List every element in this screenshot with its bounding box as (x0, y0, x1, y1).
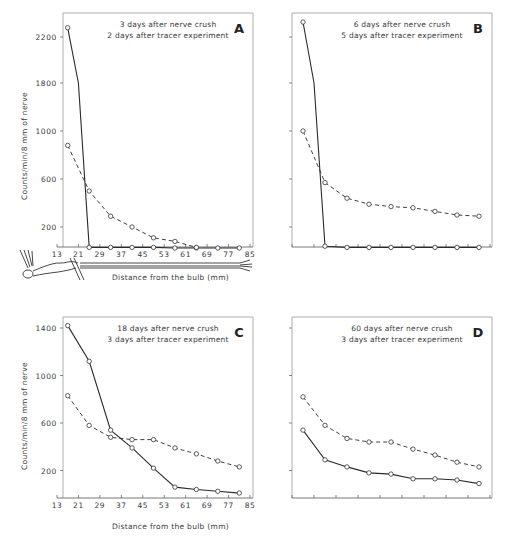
data-point-marker (323, 180, 327, 184)
series-line-dashed (303, 397, 479, 467)
data-point-marker (194, 452, 198, 456)
data-point-marker (345, 245, 349, 249)
data-point-marker (151, 466, 155, 470)
panel-title: 18 days after nerve crush (117, 324, 219, 333)
data-point-marker (389, 472, 393, 476)
y-tick-label: 1000 (36, 127, 58, 136)
panel-letter: D (473, 325, 484, 340)
data-point-marker (108, 435, 112, 439)
plot-frame (292, 317, 492, 498)
x-tick-label: 13 (52, 501, 63, 510)
x-tick-label: 45 (137, 250, 148, 259)
data-point-marker (367, 245, 371, 249)
y-tick-label: 200 (41, 223, 57, 232)
panel-d: 60 days after nerve crush3 days after tr… (289, 317, 492, 498)
plot-frame (63, 13, 253, 247)
panel-title: 6 days after nerve crush (354, 20, 451, 29)
data-point-marker (455, 460, 459, 464)
data-point-marker (173, 446, 177, 450)
data-point-marker (173, 485, 177, 489)
x-tick-label: 61 (180, 250, 191, 259)
y-axis-label-top: Counts/min/8 mm of nerve (20, 92, 29, 200)
data-point-marker (66, 143, 70, 147)
data-point-marker (216, 246, 220, 250)
data-point-marker (389, 440, 393, 444)
data-point-marker (477, 465, 481, 469)
data-point-marker (151, 437, 155, 441)
data-point-marker (367, 202, 371, 206)
series-line-solid (68, 28, 240, 248)
data-point-marker (433, 477, 437, 481)
data-point-marker (433, 453, 437, 457)
data-point-marker (389, 245, 393, 249)
data-point-marker (237, 246, 241, 250)
series-line-dashed (68, 396, 240, 467)
x-tick-label: 77 (223, 250, 234, 259)
data-point-marker (411, 447, 415, 451)
data-point-marker (108, 245, 112, 249)
data-point-marker (87, 359, 91, 363)
panel-subtitle: 3 days after tracer experiment (107, 335, 228, 344)
data-point-marker (301, 20, 305, 24)
data-point-marker (433, 245, 437, 249)
figure: 132129374553616977852006001000180022003 … (0, 0, 510, 545)
data-point-marker (108, 428, 112, 432)
data-point-marker (389, 204, 393, 208)
data-point-marker (433, 209, 437, 213)
plot-frame (63, 317, 253, 498)
data-point-marker (367, 471, 371, 475)
data-point-marker (173, 246, 177, 250)
panel-letter: A (234, 21, 244, 36)
x-tick-label: 29 (95, 501, 106, 510)
panel-c: 132129374553616977852006001000140018 day… (36, 317, 256, 510)
panel-subtitle: 2 days after tracer experiment (107, 31, 228, 40)
y-tick-label: 200 (41, 467, 57, 476)
data-point-marker (345, 196, 349, 200)
data-point-marker (323, 458, 327, 462)
data-point-marker (411, 245, 415, 249)
data-point-marker (477, 245, 481, 249)
data-point-marker (477, 481, 481, 485)
series-line-solid (303, 22, 479, 247)
data-point-marker (66, 323, 70, 327)
y-tick-label: 1800 (36, 79, 58, 88)
data-point-marker (151, 236, 155, 240)
series-line-dashed (68, 145, 197, 247)
x-tick-label: 53 (159, 501, 170, 510)
panel-b: 6 days after nerve crush5 days after tra… (289, 13, 492, 250)
panel-letter: C (234, 325, 244, 340)
y-tick-label: 1400 (36, 324, 58, 333)
data-point-marker (130, 437, 134, 441)
data-point-marker (455, 213, 459, 217)
y-tick-label: 600 (41, 419, 57, 428)
data-point-marker (151, 245, 155, 249)
x-tick-label: 37 (116, 250, 127, 259)
chart-canvas: 132129374553616977852006001000180022003 … (0, 0, 510, 545)
y-tick-label: 600 (41, 175, 57, 184)
data-point-marker (130, 245, 134, 249)
x-tick-label: 85 (245, 501, 256, 510)
data-point-marker (66, 26, 70, 30)
data-point-marker (455, 245, 459, 249)
x-axis-label-bottom: Distance from the bulb (mm) (112, 522, 229, 531)
x-axis-label-top: Distance from the bulb (mm) (112, 273, 229, 282)
data-point-marker (173, 239, 177, 243)
data-point-marker (66, 393, 70, 397)
panel-title: 60 days after nerve crush (351, 324, 453, 333)
data-point-marker (323, 244, 327, 248)
x-tick-label: 45 (137, 501, 148, 510)
x-tick-label: 61 (180, 501, 191, 510)
data-point-marker (130, 225, 134, 229)
panel-title: 3 days after nerve crush (120, 20, 217, 29)
data-point-marker (237, 465, 241, 469)
data-point-marker (411, 477, 415, 481)
data-point-marker (216, 489, 220, 493)
panel-a: 132129374553616977852006001000180022003 … (36, 13, 256, 259)
panel-letter: B (473, 21, 483, 36)
series-line-dashed (303, 131, 479, 216)
x-tick-label: 37 (116, 501, 127, 510)
data-point-marker (323, 423, 327, 427)
x-tick-label: 85 (245, 250, 256, 259)
data-point-marker (87, 189, 91, 193)
data-point-marker (301, 395, 305, 399)
